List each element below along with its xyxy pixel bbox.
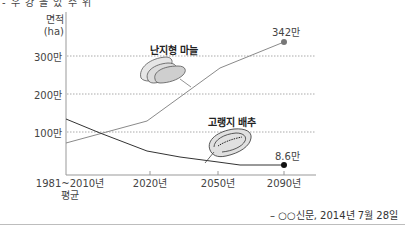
end-label-garlic: 342만 — [272, 24, 300, 39]
series-label-cabbage: 고랭지 배추 — [208, 114, 256, 129]
x-tick-label-baseline-line1: 1981~2010년 — [25, 178, 115, 190]
bottom-divider — [0, 224, 405, 225]
x-tick-label-baseline: 1981~2010년 평균 — [25, 178, 115, 202]
series-garlic-endpoint — [281, 39, 287, 45]
x-tick-label-baseline-line2: 평균 — [25, 190, 115, 202]
end-label-cabbage: 8.6만 — [275, 148, 300, 163]
y-tick-200: 200만 — [22, 87, 62, 102]
y-axis-label-line1: 면적 — [38, 14, 64, 26]
y-axis-label: 면적 (ha) — [38, 14, 64, 38]
source-citation: – ○○신문, 2014년 7월 28일 — [270, 207, 398, 222]
garlic-illustration-icon — [141, 57, 191, 87]
cabbage-illustration-icon — [205, 129, 251, 163]
y-tick-100: 100만 — [22, 125, 62, 140]
x-tick-label-2090: 2090년 — [239, 178, 329, 190]
series-label-garlic: 난지형 마늘 — [150, 42, 198, 57]
y-axis-label-line2: (ha) — [38, 26, 64, 38]
y-tick-300: 300만 — [22, 49, 62, 64]
